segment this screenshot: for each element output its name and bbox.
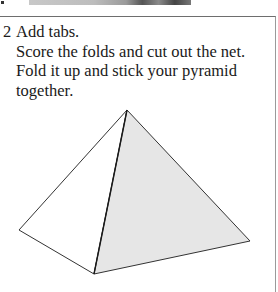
pyramid-figure xyxy=(0,0,278,292)
